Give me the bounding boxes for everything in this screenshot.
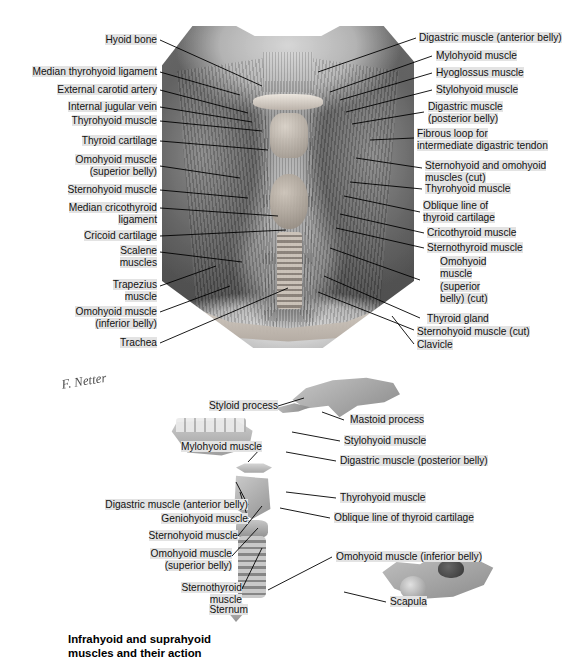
label-sternothyroid-muscle: Sternothyroid muscle: [427, 242, 577, 254]
label-geniohyoid-muscle: Geniohyoid muscle: [86, 513, 248, 525]
label-sternothyroid-muscle-bottom: Sternothyroid muscle: [120, 582, 242, 607]
label-digastric-anterior-belly: Digastric muscle (anterior belly): [419, 32, 577, 44]
hyoid-bone-shape: [253, 94, 324, 110]
label-clavicle: Clavicle: [417, 339, 577, 351]
label-mastoid-process: Mastoid process: [350, 414, 510, 426]
figure-caption: Infrahyoid and suprahyoid muscles and th…: [68, 632, 211, 660]
label-stylohyoid-muscle: Stylohyoid muscle: [436, 84, 577, 96]
label-fibrous-loop: Fibrous loop for intermediate digastric …: [417, 128, 577, 153]
label-omohyoid-superior-belly: Omohyoid muscle (superior belly): [0, 154, 157, 179]
label-cricoid-cartilage: Cricoid cartilage: [0, 230, 157, 242]
trachea-shape: [238, 536, 266, 598]
label-median-cricothyroid-ligament: Median cricothyroid ligament: [0, 202, 157, 227]
label-thyroid-gland: Thyroid gland: [427, 313, 577, 325]
label-median-thyrohyoid-ligament: Median thyrohyoid ligament: [0, 66, 157, 78]
label-sternohyoid-omohyoid-cut: Sternohyoid and omohyoid muscles (cut): [425, 160, 577, 185]
thyroid-cartilage-shape: [270, 113, 308, 158]
label-digastric-posterior-belly-bottom: Digastric muscle (posterior belly): [340, 455, 570, 467]
label-sternohyoid-muscle: Sternohyoid muscle: [0, 184, 157, 196]
label-mylohyoid-muscle: Mylohyoid muscle: [436, 50, 577, 62]
label-trapezius-muscle: Trapezius muscle: [0, 279, 157, 304]
label-hyoid-bone: Hyoid bone: [0, 34, 157, 46]
label-sternohyoid-muscle-cut: Sternohyoid muscle (cut): [417, 326, 577, 338]
label-stylohyoid-muscle-bottom: Stylohyoid muscle: [344, 435, 514, 447]
label-styloid-process: Styloid process: [120, 400, 278, 412]
label-oblique-line-thyroid-bottom: Oblique line of thyroid cartilage: [334, 512, 570, 524]
label-omohyoid-inferior-belly-bottom: Omohyoid muscle (inferior belly): [336, 551, 566, 563]
label-omohyoid-inferior-belly: Omohyoid muscle (inferior belly): [0, 306, 157, 331]
label-thyrohyoid-muscle: Thyrohyoid muscle: [0, 115, 157, 127]
label-trachea: Trachea: [0, 337, 157, 349]
label-omohyoid-superior-belly-cut: Omohyoid muscle (superior belly) (cut): [440, 256, 577, 305]
label-thyrohyoid-muscle-bottom: Thyrohyoid muscle: [340, 492, 530, 504]
teeth-shape: [176, 418, 246, 432]
label-hyoglossus-muscle: Hyoglossus muscle: [436, 67, 577, 79]
label-scapula: Scapula: [390, 596, 510, 608]
label-cricothyroid-muscle: Cricothyroid muscle: [427, 227, 577, 239]
label-digastric-posterior-belly: Digastric muscle (posterior belly): [428, 101, 577, 126]
trachea-shape: [277, 232, 302, 309]
label-oblique-line-thyroid: Oblique line of thyroid cartilage: [423, 200, 577, 225]
label-thyrohyoid-muscle-right: Thyrohyoid muscle: [425, 183, 577, 195]
label-internal-jugular-vein: Internal jugular vein: [0, 101, 157, 113]
thyroid-gland-shape: [270, 174, 308, 229]
label-sternum: Sternum: [150, 604, 248, 616]
label-mylohyoid-muscle-bottom: Mylohyoid muscle: [100, 441, 262, 453]
label-digastric-anterior-belly-bottom: Digastric muscle (anterior belly): [56, 499, 248, 511]
label-omohyoid-superior-belly-bottom: Omohyoid muscle (superior belly): [86, 548, 232, 573]
anterior-neck-dissection-image: [162, 26, 414, 348]
label-sternohyoid-muscle-bottom: Sternohyoid muscle: [86, 530, 238, 542]
label-scalene-muscles: Scalene muscles: [0, 245, 157, 270]
label-external-carotid-artery: External carotid artery: [0, 84, 157, 96]
skull-shape: [288, 375, 400, 419]
label-thyroid-cartilage: Thyroid cartilage: [0, 135, 157, 147]
hyoid-bone-shape: [236, 462, 272, 474]
